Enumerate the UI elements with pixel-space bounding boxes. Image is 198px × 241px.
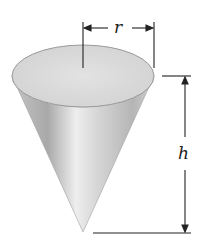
- arrowhead-left-icon: [84, 25, 91, 31]
- arrowhead-down-icon: [182, 225, 188, 232]
- radius-label: r: [114, 17, 123, 37]
- arrowhead-up-icon: [182, 77, 188, 84]
- cone-diagram: r h: [0, 0, 198, 241]
- height-label: h: [178, 143, 189, 163]
- arrowhead-right-icon: [146, 25, 153, 31]
